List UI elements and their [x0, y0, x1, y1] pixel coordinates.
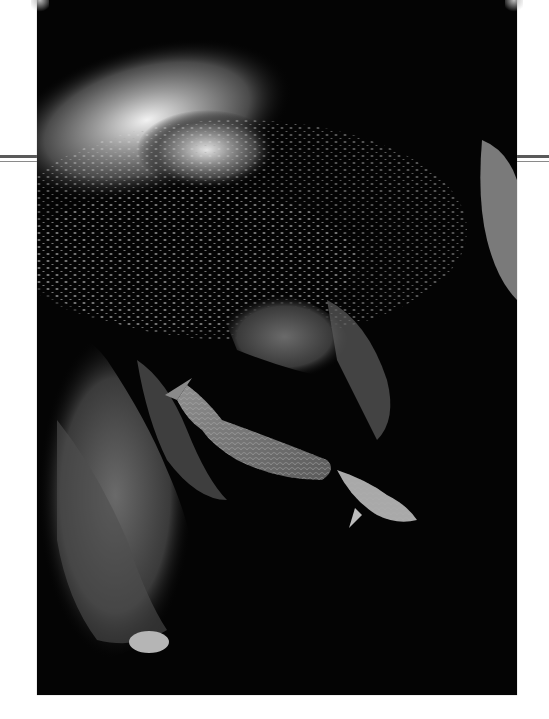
decorative-rule-right — [517, 155, 549, 165]
decorative-rule-left — [0, 155, 38, 165]
corner-shadow-right — [505, 0, 523, 14]
parrotfish-small — [337, 470, 417, 528]
underwater-photo — [37, 0, 517, 695]
fish-school — [37, 9, 467, 340]
corner-shadow-left — [31, 0, 49, 14]
